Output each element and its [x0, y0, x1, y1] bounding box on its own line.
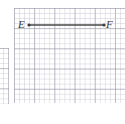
point-label-e: E	[18, 19, 25, 30]
point-label-f: F	[106, 19, 113, 30]
left-partial-grid-panel	[0, 48, 9, 104]
